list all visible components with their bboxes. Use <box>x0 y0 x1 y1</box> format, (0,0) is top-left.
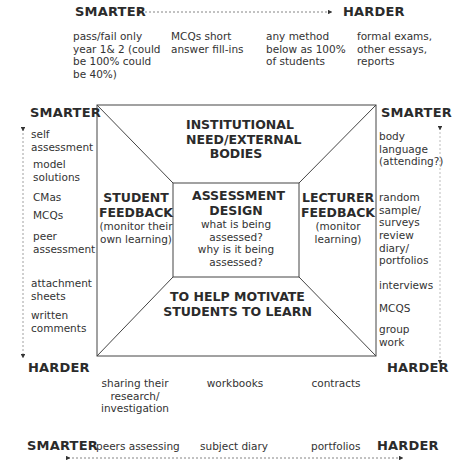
diagonal-top-right <box>299 105 376 183</box>
below-box-item: contracts <box>296 377 376 390</box>
assessment-design-title: ASSESSMENT DESIGN <box>174 189 298 218</box>
right-scale-item: interviews <box>379 279 439 292</box>
section-lecturer-feedback: LECTURER FEEDBACK (monitor learning) <box>300 191 376 245</box>
lecturer-feedback-title: LECTURER FEEDBACK <box>300 191 376 220</box>
left-scale-item: MCQs <box>33 209 93 222</box>
left-scale-item: written comments <box>31 309 95 334</box>
student-feedback-title: STUDENT FEEDBACK <box>99 191 173 220</box>
top-scale-item: any method below as 100% of students <box>266 30 348 68</box>
left-scale-item: peer assessment <box>33 230 97 255</box>
left-scale-smarter-label: SMARTER <box>30 105 101 120</box>
left-scale-item: CMas <box>33 191 93 204</box>
below-box-item: workbooks <box>195 377 275 390</box>
bottom-scale-item: portfolios <box>311 440 360 453</box>
top-scale-item: MCQs short answer fill-ins <box>171 30 251 55</box>
bottom-scale-item: subject diary <box>200 440 268 453</box>
left-scale-item: model solutions <box>33 158 93 183</box>
left-scale-item: attachment sheets <box>31 277 95 302</box>
right-scale-item: random sample/ surveys <box>379 191 431 229</box>
left-scale-item: self assessment <box>31 128 95 153</box>
top-scale-item: pass/fail only year 1& 2 (could be 100% … <box>73 30 165 80</box>
right-scale-smarter-label: SMARTER <box>381 105 452 120</box>
left-scale-harder-label: HARDER <box>28 360 90 375</box>
below-box-item: sharing their research/ investigation <box>95 377 175 415</box>
right-scale-item: MCQS <box>379 302 439 315</box>
section-institutional-need: INSTITUTIONAL NEED/EXTERNAL BODIES <box>186 118 286 162</box>
diagonal-top-left <box>97 105 173 183</box>
section-student-feedback: STUDENT FEEDBACK (monitor their own lear… <box>99 191 173 245</box>
student-feedback-subtitle: (monitor their own learning) <box>99 220 173 245</box>
top-scale-smarter-label: SMARTER <box>75 4 146 19</box>
assessment-design-question: what is being assessed? <box>174 218 298 243</box>
section-motivate-students: TO HELP MOTIVATE STUDENTS TO LEARN <box>160 290 315 319</box>
assessment-design-question: why is it being assessed? <box>174 243 298 268</box>
top-scale-item: formal exams, other essays, reports <box>357 30 447 68</box>
top-scale-harder-label: HARDER <box>343 4 405 19</box>
right-scale-item: review diary/ portfolios <box>379 229 431 267</box>
bottom-scale-harder-label: HARDER <box>377 438 439 453</box>
right-scale-item: group work <box>379 323 419 348</box>
section-assessment-design: ASSESSMENT DESIGN what is being assessed… <box>174 189 298 268</box>
bottom-scale-item: peers assessing <box>96 440 180 453</box>
lecturer-feedback-subtitle: (monitor learning) <box>300 220 376 245</box>
right-scale-item: body language (attending?) <box>379 130 441 168</box>
right-scale-harder-label: HARDER <box>387 360 449 375</box>
bottom-scale-smarter-label: SMARTER <box>27 438 98 453</box>
